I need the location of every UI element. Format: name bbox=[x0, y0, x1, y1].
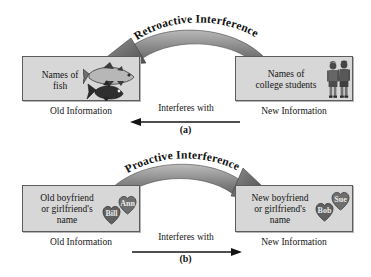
heart-shape-ann: Ann bbox=[119, 196, 136, 214]
new-information-box-a-text: Names of college students bbox=[244, 69, 328, 91]
new-information-box-b: New boyfriend or girlfriend's name Sue B… bbox=[235, 185, 353, 232]
panel-proactive-interference: Proactive Interference Old boyfriend or … bbox=[0, 140, 371, 277]
fish-illustration-icon bbox=[83, 61, 139, 101]
hearts-illustration-icon: Sue Bob bbox=[302, 189, 352, 229]
old-information-box-a: Names of fish bbox=[22, 56, 140, 101]
interferes-with-label-a: Interferes with bbox=[126, 103, 246, 113]
new-information-caption-b: New Information bbox=[235, 237, 353, 247]
heart-name-bob: Bob bbox=[318, 206, 332, 215]
panel-retroactive-interference: Retroactive Interference Names of fish bbox=[0, 0, 371, 140]
interferes-with-label-b: Interferes with bbox=[126, 232, 246, 242]
college-students-illustration-icon bbox=[325, 60, 351, 100]
interference-diagram: Retroactive Interference Names of fish bbox=[0, 0, 371, 277]
heart-shape-sue: Sue bbox=[332, 192, 349, 210]
new-information-caption-a: New Information bbox=[235, 106, 353, 116]
panel-letter-b: (b) bbox=[0, 253, 371, 264]
heart-name-bill: Bill bbox=[105, 209, 118, 218]
old-information-box-b: Old boyfriend or girlfriend's name Ann B… bbox=[22, 185, 140, 232]
old-information-caption-b: Old Information bbox=[22, 237, 140, 247]
heart-name-sue: Sue bbox=[334, 195, 347, 204]
new-information-box-a: Names of college students bbox=[235, 56, 353, 101]
hearts-illustration-icon: Ann Bill bbox=[89, 191, 139, 231]
heart-shape-bob: Bob bbox=[316, 203, 333, 221]
heart-name-ann: Ann bbox=[120, 199, 135, 208]
old-information-caption-a: Old Information bbox=[22, 106, 140, 116]
heart-shape-bill: Bill bbox=[103, 206, 120, 224]
panel-letter-a: (a) bbox=[0, 124, 371, 135]
